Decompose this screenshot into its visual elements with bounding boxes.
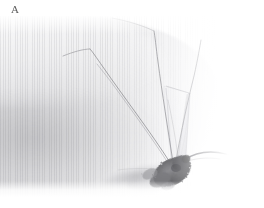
leg-1b <box>63 49 90 56</box>
figure-panel: A <box>0 0 264 208</box>
plate-bottom-fade <box>0 181 264 197</box>
plate-right-fade <box>172 0 264 197</box>
panel-label: A <box>11 3 19 16</box>
leg-2 <box>97 64 170 166</box>
photograph <box>0 0 264 197</box>
